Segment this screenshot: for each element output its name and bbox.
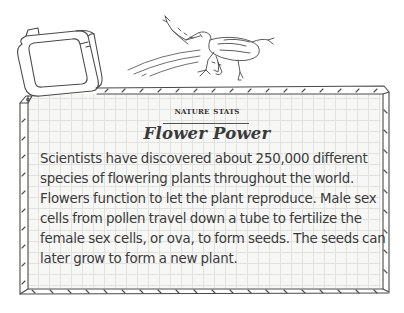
panel-left-ticks bbox=[22, 119, 25, 284]
card-title: Flower Power bbox=[110, 124, 304, 143]
panel-right-ticks bbox=[384, 110, 387, 273]
body-line: female sex cells, or ova, to form seeds.… bbox=[40, 229, 380, 249]
body-line: Flowers function to let the plant reprod… bbox=[40, 189, 380, 209]
body-line: species of flowering plants throughout t… bbox=[40, 169, 380, 189]
panel-top-ticks bbox=[105, 89, 377, 92]
panel-top-edge bbox=[96, 86, 389, 94]
body-line: cells from pollen travel down a tube to … bbox=[40, 209, 380, 229]
motion-lines bbox=[128, 50, 200, 76]
frog bbox=[163, 16, 274, 80]
body-line: later grow to form a new plant. bbox=[40, 249, 380, 269]
card-body: Scientists have discovered about 250,000… bbox=[40, 149, 380, 269]
tape-measure-case bbox=[18, 28, 103, 96]
body-line: Scientists have discovered about 250,000… bbox=[40, 149, 380, 169]
panel-bottom-edge bbox=[20, 289, 389, 294]
section-kicker: Nature Stats bbox=[130, 104, 284, 116]
panel-bottom-ticks bbox=[32, 290, 377, 293]
